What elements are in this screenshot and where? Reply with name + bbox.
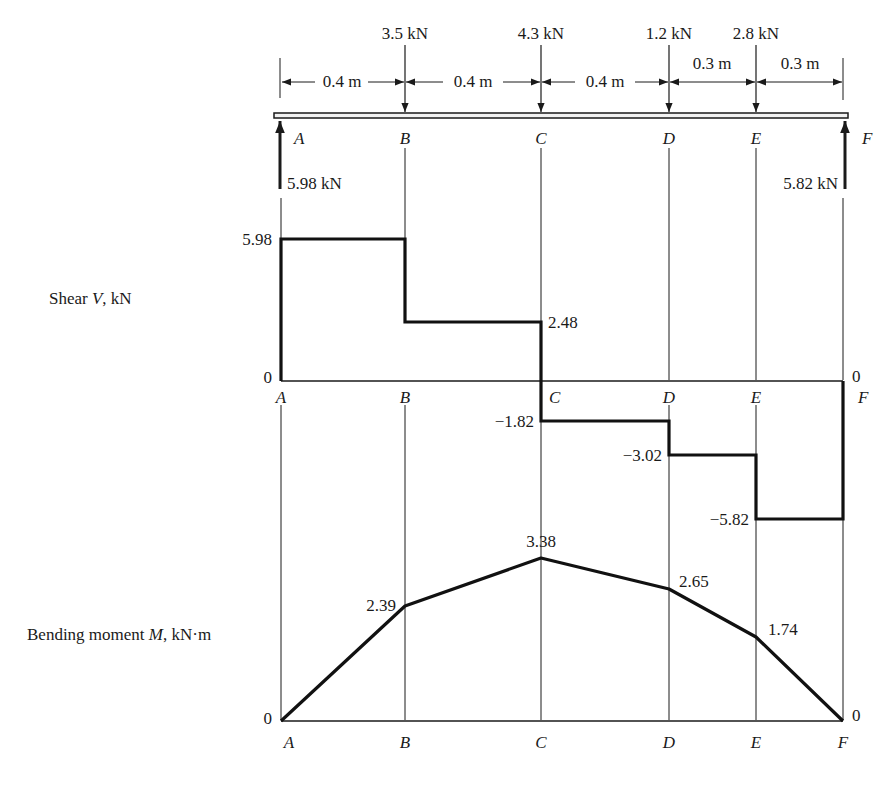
- shear-value-5-98: 5.98: [220, 231, 272, 248]
- shear-diagram: [281, 239, 843, 519]
- moment-diagram: [281, 558, 843, 721]
- moment-point-c: C: [535, 734, 546, 751]
- shear-zero-left: 0: [250, 369, 272, 386]
- moment-point-a: A: [284, 734, 294, 751]
- shear-point-a: A: [276, 389, 286, 406]
- moment-value-1-74: 1.74: [768, 621, 798, 638]
- moment-point-e: E: [751, 734, 761, 751]
- load-label-c: 4.3 kN: [518, 25, 564, 42]
- shear-curve: [281, 239, 843, 519]
- moment-value-2-39: 2.39: [330, 597, 396, 614]
- moment-value-2-65: 2.65: [679, 573, 709, 590]
- span-label-ab: 0.4 m: [323, 73, 362, 90]
- moment-point-b: B: [400, 734, 410, 751]
- beam-diagram: [0, 0, 896, 788]
- beam-point-c: C: [535, 130, 546, 147]
- moment-point-d: D: [663, 734, 675, 751]
- shear-point-f: F: [858, 389, 868, 406]
- moment-value-3-38: 3.38: [526, 533, 556, 550]
- beam-point-d: D: [663, 130, 675, 147]
- moment-axis-label: Bending moment M, kN·m: [27, 626, 211, 643]
- vertical-guides: [281, 148, 843, 720]
- load-label-e: 2.8 kN: [733, 25, 779, 42]
- moment-point-f: F: [838, 734, 848, 751]
- beam: [274, 113, 848, 118]
- shear-value-neg-3-02: −3.02: [598, 447, 662, 464]
- shear-point-b: B: [400, 389, 410, 406]
- span-label-bc: 0.4 m: [454, 73, 493, 90]
- shear-point-d: D: [663, 389, 675, 406]
- load-label-b: 3.5 kN: [382, 25, 428, 42]
- shear-axis-label: Shear V, kN: [49, 290, 132, 307]
- span-label-de: 0.3 m: [693, 55, 732, 72]
- shear-value-2-48: 2.48: [548, 314, 578, 331]
- shear-value-neg-5-82: −5.82: [685, 511, 749, 528]
- moment-zero-right: 0: [852, 707, 861, 724]
- reaction-label-a: 5.98 kN: [287, 175, 342, 192]
- shear-point-e: E: [751, 389, 761, 406]
- beam-point-a: A: [294, 130, 304, 147]
- span-label-ef: 0.3 m: [781, 55, 820, 72]
- moment-zero-left: 0: [250, 710, 272, 727]
- dimension-line: [280, 58, 843, 100]
- shear-value-neg-1-82: −1.82: [470, 413, 534, 430]
- reaction-label-f: 5.82 kN: [755, 175, 838, 192]
- moment-curve: [281, 558, 843, 721]
- shear-zero-right: 0: [852, 368, 861, 385]
- span-label-cd: 0.4 m: [586, 73, 625, 90]
- beam-point-f: F: [862, 130, 872, 147]
- beam-point-b: B: [400, 130, 410, 147]
- shear-point-c: C: [549, 389, 560, 406]
- load-label-d: 1.2 kN: [646, 25, 692, 42]
- beam-point-e: E: [751, 130, 761, 147]
